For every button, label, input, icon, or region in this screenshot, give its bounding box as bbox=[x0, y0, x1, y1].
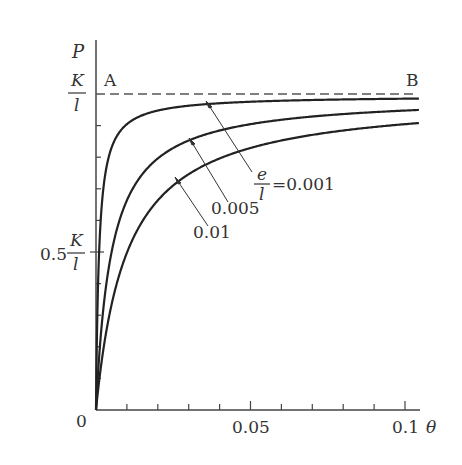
y-tick-half-den: l bbox=[73, 254, 78, 274]
y-axis-label: P bbox=[71, 41, 85, 62]
y-tick-k-den: l bbox=[74, 95, 79, 115]
curve-e-0.005 bbox=[96, 110, 419, 410]
x-axis-label: θ bbox=[426, 417, 436, 437]
curve1-label-value: =0.001 bbox=[272, 174, 335, 194]
y-tick-half-num: K bbox=[69, 230, 84, 250]
x-tick-label-0.1: 0.1 bbox=[392, 417, 419, 437]
x-tick-label-0.05: 0.05 bbox=[232, 417, 270, 437]
y-tick-k-num: K bbox=[70, 70, 85, 90]
curve1-label-den: l bbox=[259, 184, 264, 204]
curve1-label-num: e bbox=[257, 164, 267, 184]
arrow-0.005 bbox=[191, 141, 228, 202]
origin-label: 0 bbox=[76, 411, 87, 431]
arrow-0.01 bbox=[177, 180, 208, 226]
arrow-0.001 bbox=[208, 104, 252, 172]
point-a-label: A bbox=[103, 70, 117, 90]
curve2-label: 0.005 bbox=[211, 198, 260, 218]
y-tick-half-prefix: 0.5 bbox=[40, 244, 67, 264]
point-b-label: B bbox=[406, 70, 419, 90]
curve3-label: 0.01 bbox=[193, 222, 231, 242]
x-ticks bbox=[127, 401, 405, 410]
chart: P K l 0.5 K l 0 0.05 0.1 θ A B e l =0.00… bbox=[0, 0, 462, 465]
